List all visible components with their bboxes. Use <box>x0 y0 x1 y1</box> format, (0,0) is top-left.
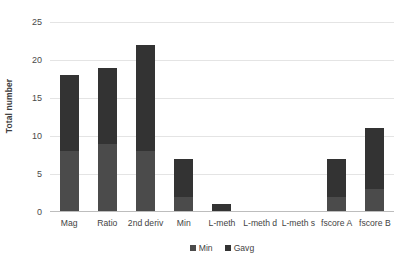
bar-segment-min[interactable] <box>365 189 384 212</box>
bar-stack[interactable] <box>60 75 79 212</box>
legend-swatch-icon <box>225 245 231 251</box>
x-axis-tick-label: Min <box>165 216 203 234</box>
bar-segment-min[interactable] <box>327 197 346 212</box>
legend-label: Gavg <box>234 243 255 253</box>
x-axis-tick-label: fscore B <box>356 216 394 234</box>
legend-item[interactable]: Gavg <box>225 243 255 253</box>
bar-stack[interactable] <box>174 159 193 212</box>
x-axis-tick-label: Ratio <box>88 216 126 234</box>
y-axis-tick-labels: 0510152025 <box>16 0 46 265</box>
y-axis-title: Total number <box>2 0 16 212</box>
x-axis-tick-label: 2nd deriv <box>126 216 164 234</box>
bar-group[interactable] <box>318 22 356 212</box>
x-axis-line <box>50 211 394 212</box>
chart-legend: MinGavg <box>50 240 394 256</box>
bar-group[interactable] <box>88 22 126 212</box>
y-axis-tick-label: 5 <box>37 169 42 179</box>
stacked-bar-chart: Total number 0510152025 MagRatio2nd deri… <box>0 0 402 265</box>
bar-segment-gavg[interactable] <box>136 45 155 151</box>
y-axis-tick-label: 15 <box>32 93 42 103</box>
bar-group[interactable] <box>165 22 203 212</box>
y-axis-tick-label: 20 <box>32 55 42 65</box>
legend-label: Min <box>199 243 213 253</box>
x-axis-tick-label: L-meth d <box>241 216 279 234</box>
y-axis-title-text: Total number <box>4 79 14 133</box>
bar-stack[interactable] <box>98 68 117 212</box>
bar-group[interactable] <box>241 22 279 212</box>
bar-segment-gavg[interactable] <box>365 128 384 189</box>
bar-stack[interactable] <box>365 128 384 212</box>
bar-stack[interactable] <box>327 159 346 212</box>
bar-segment-min[interactable] <box>174 197 193 212</box>
y-axis-tick-label: 10 <box>32 131 42 141</box>
x-axis-tick-label: Mag <box>50 216 88 234</box>
bar-group[interactable] <box>203 22 241 212</box>
bar-segment-min[interactable] <box>136 151 155 212</box>
x-axis-tick-label: L-meth s <box>279 216 317 234</box>
bar-segment-gavg[interactable] <box>60 75 79 151</box>
legend-item[interactable]: Min <box>190 243 213 253</box>
bar-group[interactable] <box>126 22 164 212</box>
bar-segment-min[interactable] <box>60 151 79 212</box>
bar-segment-gavg[interactable] <box>98 68 117 144</box>
plot-area <box>50 22 394 212</box>
y-axis-tick-label: 0 <box>37 207 42 217</box>
bar-group[interactable] <box>356 22 394 212</box>
bar-stack[interactable] <box>136 45 155 212</box>
bar-segment-gavg[interactable] <box>327 159 346 197</box>
bar-segment-min[interactable] <box>98 144 117 212</box>
x-axis-tick-label: L-meth <box>203 216 241 234</box>
bar-segment-gavg[interactable] <box>174 159 193 197</box>
bar-group[interactable] <box>50 22 88 212</box>
bars-layer <box>50 22 394 212</box>
x-axis-tick-labels: MagRatio2nd derivMinL-methL-meth dL-meth… <box>50 216 394 234</box>
y-axis-tick-label: 25 <box>32 17 42 27</box>
bar-group[interactable] <box>279 22 317 212</box>
legend-swatch-icon <box>190 245 196 251</box>
x-axis-tick-label: fscore A <box>318 216 356 234</box>
